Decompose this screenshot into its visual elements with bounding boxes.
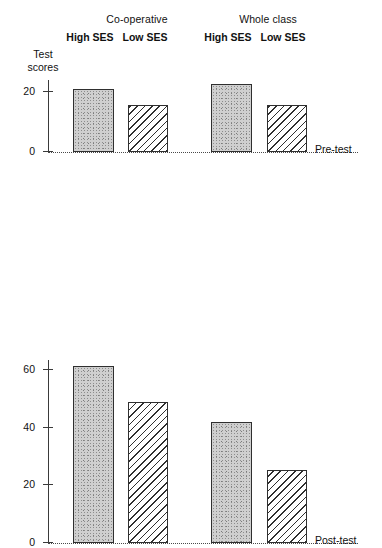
y-tick-label-pre-0: 0 bbox=[29, 146, 35, 156]
y-tick-label-post-20: 20 bbox=[23, 479, 35, 489]
y-tick-label-post-40: 40 bbox=[23, 422, 35, 432]
y-tick-post-40: 40 bbox=[43, 427, 53, 428]
bar-post-co-operative-low-ses bbox=[128, 402, 168, 543]
x-axis-baseline-pre-test bbox=[48, 152, 358, 153]
bar-pre-co-operative-high-ses bbox=[73, 89, 114, 152]
panel-pre-test: 20 0 Pre-test bbox=[0, 0, 382, 170]
y-tick-pre-0: 0 bbox=[43, 151, 53, 152]
y-tick-label-post-60: 60 bbox=[23, 364, 35, 374]
panel-label-pre-test: Pre-test bbox=[315, 143, 352, 155]
plot-area-pre-test: 20 0 bbox=[48, 80, 310, 152]
y-axis-line-post-test bbox=[48, 360, 49, 543]
bar-pre-whole-class-high-ses bbox=[211, 84, 252, 152]
bar-post-whole-class-high-ses bbox=[211, 422, 252, 543]
y-tick-label-pre-20: 20 bbox=[23, 86, 35, 96]
bar-pre-co-operative-low-ses bbox=[128, 105, 168, 152]
y-tick-pre-20: 20 bbox=[43, 91, 53, 92]
plot-area-post-test: 60 40 20 0 bbox=[48, 360, 310, 543]
y-tick-label-post-0: 0 bbox=[29, 537, 35, 547]
bar-post-whole-class-low-ses bbox=[267, 470, 307, 543]
y-tick-post-20: 20 bbox=[43, 484, 53, 485]
y-tick-post-0: 0 bbox=[43, 542, 53, 543]
panel-post-test: 60 40 20 0 Post-test bbox=[0, 170, 382, 398]
x-axis-baseline-post-test bbox=[48, 543, 358, 544]
bar-post-co-operative-high-ses bbox=[73, 366, 114, 543]
panel-label-post-test: Post-test bbox=[315, 534, 356, 546]
bar-pre-whole-class-low-ses bbox=[267, 105, 307, 152]
y-tick-post-60: 60 bbox=[43, 369, 53, 370]
